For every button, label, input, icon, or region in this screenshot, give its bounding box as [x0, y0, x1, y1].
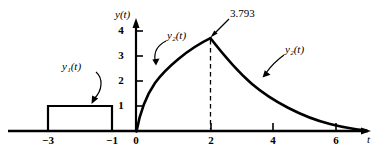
series-label-y1: y₁(t)	[62, 60, 81, 72]
y1-callout-curve	[94, 72, 101, 99]
y2-rising-callout-curve	[155, 41, 166, 60]
figure-panel: y(t) t 1 2 3 4 −3 −1 0 2 4 6 3.793 y₁(t)…	[0, 0, 387, 157]
y2-decay-callout-curve	[266, 55, 284, 73]
series-label-y2-rising: y₂(t)	[167, 29, 186, 41]
series-y2-rising	[137, 38, 211, 131]
y-tick-label-4: 4	[114, 24, 128, 36]
peak-value-label: 3.793	[230, 7, 255, 19]
x-axis-label-text: t	[367, 133, 370, 145]
y-tick-label-1: 1	[114, 99, 128, 111]
y-tick-label-2: 2	[114, 74, 128, 86]
x-tick-label-4: 4	[264, 134, 282, 146]
y-tick-label-3: 3	[114, 49, 128, 61]
x-tick-label-neg3: −3	[38, 134, 58, 146]
series-y1-pulse	[48, 106, 112, 131]
x-axis-label: t	[367, 133, 370, 145]
y2-rising-callout-arrowhead	[152, 58, 159, 65]
x-tick-label-neg1: −1	[102, 134, 122, 146]
series-label-y2-decay: y₂(t)	[285, 43, 304, 55]
x-tick-label-0: 0	[127, 134, 145, 146]
x-tick-label-2: 2	[202, 134, 220, 146]
y1-callout-arrowhead	[92, 96, 99, 104]
y-axis-label-text: y(t)	[115, 8, 130, 20]
y-axis-label: y(t)	[115, 8, 130, 20]
y-axis-arrowhead	[133, 18, 140, 28]
x-tick-label-6: 6	[327, 134, 345, 146]
